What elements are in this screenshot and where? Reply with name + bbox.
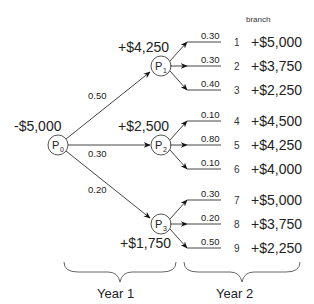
branch-prob: 0.40 (201, 78, 220, 89)
branch-number: 4 (234, 116, 240, 127)
branch-number: 2 (234, 61, 240, 72)
branch-prob: 0.30 (201, 54, 220, 65)
branch-number: 9 (234, 243, 240, 254)
edge-p0-p3 (66, 151, 150, 218)
value-p3: +$1,750 (120, 235, 171, 251)
branch-value: +$3,750 (251, 216, 302, 232)
branch-number: 3 (234, 85, 240, 96)
branch-value: +$5,000 (251, 192, 302, 208)
year2-branch: 0.805+$4,250 (170, 133, 302, 153)
value-p1: +$4,250 (118, 39, 169, 55)
branch-value: +$2,250 (251, 82, 302, 98)
value-p2: +$2,500 (118, 118, 169, 134)
year2-brace (184, 262, 300, 282)
year2-branch: 0.403+$2,250 (170, 71, 302, 98)
node-p2: P 2 (151, 135, 171, 155)
branch-arrow (170, 71, 187, 90)
branch-number: 1 (234, 37, 240, 48)
branch-value: +$2,250 (251, 240, 302, 256)
year2-branches: 0.301+$5,0000.302+$3,7500.403+$2,2500.10… (170, 30, 302, 256)
period-year2: Year 2 (216, 286, 253, 301)
year2-branch: 0.106+$4,000 (170, 150, 302, 177)
node-p1: P 1 (151, 56, 171, 76)
branch-arrow (170, 121, 187, 140)
node-p1-label: P (155, 60, 162, 72)
node-p2-sub: 2 (163, 146, 167, 153)
year2-branch: 0.208+$3,750 (170, 212, 302, 232)
branch-prob: 0.10 (201, 109, 220, 120)
branch-number: 6 (234, 164, 240, 175)
branch-value: +$5,000 (251, 34, 302, 50)
branch-value: +$4,500 (251, 113, 302, 129)
branch-value: +$4,250 (251, 137, 302, 153)
year2-branch: 0.307+$5,000 (170, 188, 302, 219)
branch-value: +$3,750 (251, 58, 302, 74)
prob-p2: 0.30 (88, 148, 107, 159)
prob-p1: 0.50 (88, 90, 107, 101)
node-p3: P 3 (151, 214, 171, 234)
prob-p3: 0.20 (88, 184, 107, 195)
branch-arrow (170, 229, 187, 248)
branch-number: 8 (234, 219, 240, 230)
year2-branch: 0.104+$4,500 (170, 109, 302, 140)
year2-branch: 0.301+$5,000 (170, 30, 302, 61)
branch-prob: 0.30 (201, 188, 220, 199)
branch-prob: 0.20 (201, 212, 220, 223)
branch-number: 5 (234, 140, 240, 151)
branch-arrow (170, 150, 187, 169)
branch-prob: 0.80 (201, 133, 220, 144)
branch-prob: 0.30 (201, 30, 220, 41)
branch-arrow (170, 42, 187, 61)
node-p3-label: P (155, 218, 162, 230)
node-p1-sub: 1 (163, 67, 167, 74)
branch-header: branch (246, 15, 270, 24)
branch-prob: 0.50 (201, 236, 220, 247)
period-year1: Year 1 (97, 286, 134, 301)
year1-brace (64, 262, 176, 282)
node-p3-sub: 3 (163, 225, 167, 232)
year2-branch: 0.302+$3,750 (170, 54, 302, 74)
node-p0-sub: 0 (60, 146, 64, 153)
branch-value: +$4,000 (251, 161, 302, 177)
year2-branch: 0.509+$2,250 (170, 229, 302, 256)
node-p0-label: P (52, 139, 59, 151)
node-p0: P 0 (48, 135, 68, 155)
probability-tree-diagram: branch -$5,000 P 0 0.50 0.30 0.20 +$4,25… (0, 0, 314, 304)
node-p2-label: P (155, 139, 162, 151)
branch-number: 7 (234, 195, 240, 206)
branch-prob: 0.10 (201, 157, 220, 168)
branch-arrow (170, 200, 187, 219)
root-value: -$5,000 (14, 118, 62, 134)
